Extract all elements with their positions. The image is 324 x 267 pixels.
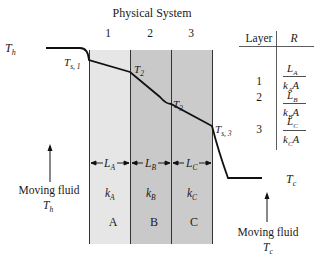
label-t-h: Th	[5, 41, 16, 57]
fluid-temp-left: Th	[43, 199, 53, 214]
layer-letter-a: A	[109, 215, 118, 229]
table-header-layer: Layer	[246, 32, 273, 45]
layer-number-2: 2	[147, 27, 153, 39]
table-row-3-denominator: kCA	[283, 133, 300, 148]
table-row-1-numerator: LA	[286, 62, 298, 77]
fluid-label-right: Moving fluid	[237, 226, 298, 239]
table-row-1-layer: 1	[256, 75, 262, 87]
resistance-table: Layer R 1 LA kAA 2 LB kBA 3 LC kCA	[239, 31, 314, 150]
diagram-title: Physical System	[112, 6, 192, 20]
layer-number-1: 1	[105, 27, 111, 39]
fluid-label-left: Moving fluid	[18, 184, 79, 197]
fluid-temp-right: Tc	[263, 241, 273, 256]
label-t-c: Tc	[286, 172, 297, 188]
label-t-s3: Ts, 3	[215, 123, 232, 138]
layer-number-3: 3	[188, 27, 194, 39]
table-row-2-layer: 2	[256, 91, 262, 103]
label-t-s1: Ts, 1	[64, 56, 81, 71]
arrowhead-up-icon	[48, 144, 53, 151]
arrowhead-up-icon	[265, 192, 270, 199]
table-row-2-numerator: LB	[286, 89, 298, 104]
layer-letter-b: B	[150, 215, 158, 229]
table-header-r: R	[289, 32, 297, 44]
composite-wall-diagram: Physical System 1 2 3 Th Ts, 1 T2 T3 Ts,…	[0, 0, 324, 267]
table-row-3-layer: 3	[256, 123, 262, 135]
layer-letter-c: C	[190, 215, 198, 229]
